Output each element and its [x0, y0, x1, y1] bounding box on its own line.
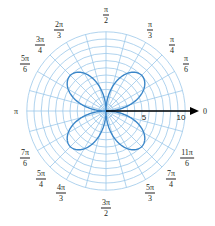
label-numerator: 7π [20, 149, 30, 159]
label-numerator: π [103, 6, 109, 16]
radial-tick-10: 10 [177, 113, 186, 122]
angle-label-4pi-3: 4π 3 [56, 184, 66, 203]
angle-label-pi-6: π 6 [183, 55, 189, 74]
angle-label-11pi-6: 11π 6 [180, 149, 194, 168]
angle-label-5pi-6: 5π 6 [20, 55, 30, 74]
arrowhead-icon [190, 107, 199, 115]
label-numerator: 5π [36, 170, 46, 180]
angle-label-pi: π [14, 107, 18, 116]
grid-spoke [106, 71, 175, 111]
label-numerator: 5π [20, 55, 30, 65]
label-numerator: π [183, 55, 189, 65]
grid-spoke [37, 71, 106, 111]
label-numerator: π [147, 21, 153, 31]
angle-label-pi-2: π 2 [103, 6, 109, 25]
label-denominator: 3 [59, 194, 63, 203]
grid-spoke [106, 111, 175, 151]
angle-label-0: 0 [203, 107, 207, 116]
label-numerator: 4π [56, 184, 66, 194]
grid-spoke [66, 111, 106, 180]
label-denominator: 3 [57, 31, 61, 40]
label-numerator: 3π [101, 199, 111, 209]
grid-spoke [106, 42, 146, 111]
angle-label-7pi-6: 7π 6 [20, 149, 30, 168]
label-denominator: 6 [185, 159, 189, 168]
label-denominator: 4 [39, 180, 43, 189]
label-numerator: π [169, 36, 175, 46]
grid-spoke [106, 111, 146, 180]
label-denominator: 3 [148, 194, 152, 203]
angle-label-pi-4: π 4 [169, 36, 175, 55]
angle-label-5pi-4: 5π 4 [36, 170, 46, 189]
grid-spoke [66, 42, 106, 111]
label-numerator: 3π [35, 36, 45, 46]
label-numerator: 2π [54, 21, 64, 31]
angle-label-3pi-4: 3π 4 [35, 36, 45, 55]
label-denominator: 2 [104, 209, 108, 218]
label-numerator: 5π [145, 184, 155, 194]
label-denominator: 6 [23, 159, 27, 168]
angle-label-pi-3: π 3 [147, 21, 153, 40]
label-denominator: 4 [38, 46, 42, 55]
label-denominator: 3 [148, 31, 152, 40]
label-denominator: 2 [104, 16, 108, 25]
radial-tick-5: 5 [142, 113, 146, 122]
angle-label-2pi-3: 2π 3 [54, 21, 64, 40]
label-denominator: 6 [23, 65, 27, 74]
angle-label-5pi-3: 5π 3 [145, 184, 155, 203]
label-numerator: 11π [180, 149, 194, 159]
label-denominator: 6 [184, 65, 188, 74]
label-denominator: 4 [170, 46, 174, 55]
grid-spoke [37, 111, 106, 151]
angle-label-3pi-2: 3π 2 [101, 199, 111, 218]
angle-label-7pi-4: 7π 4 [166, 170, 176, 189]
label-denominator: 4 [169, 180, 173, 189]
label-numerator: 7π [166, 170, 176, 180]
